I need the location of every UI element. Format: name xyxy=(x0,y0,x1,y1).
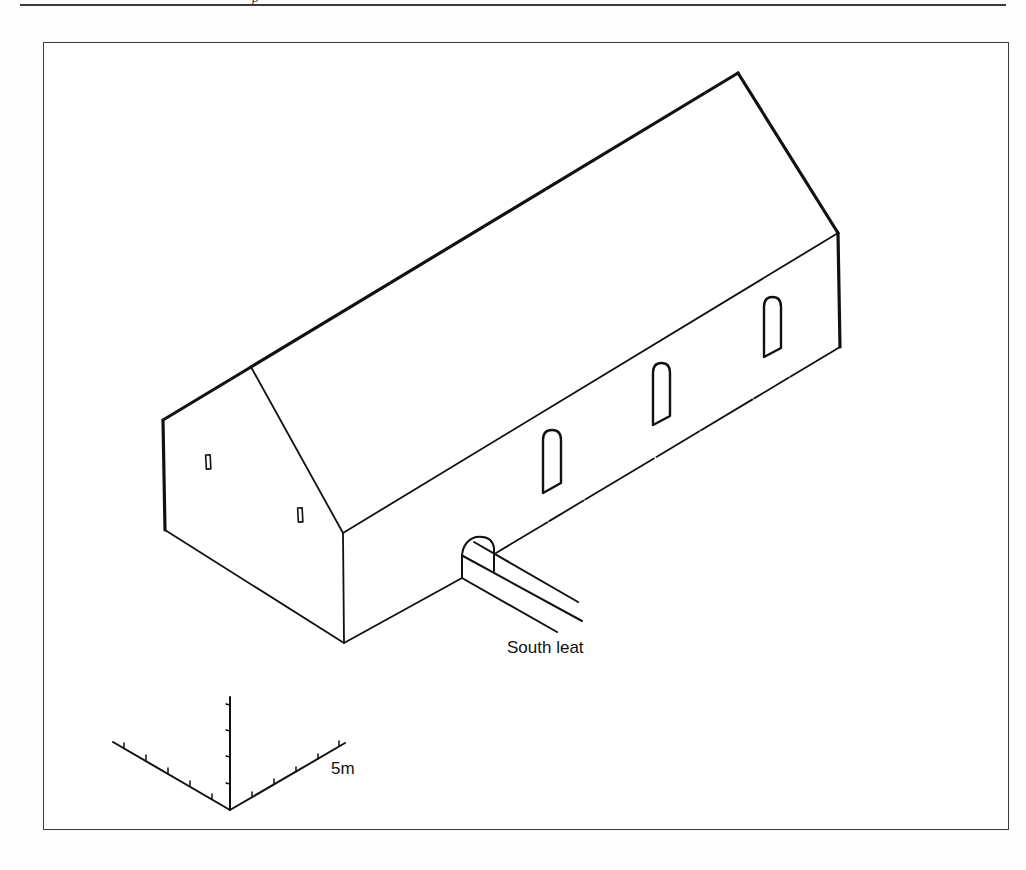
page: p xyxy=(0,0,1026,870)
isometric-building-drawing xyxy=(0,0,1026,870)
south-leat-label: South leat xyxy=(507,639,584,656)
building-outline xyxy=(163,73,840,530)
scale-label: 5m xyxy=(331,760,355,777)
gable-windows xyxy=(206,455,303,522)
south-leat xyxy=(462,537,582,632)
scale-bar xyxy=(113,697,345,810)
building-edges xyxy=(165,233,840,643)
side-arched-windows xyxy=(543,297,781,493)
